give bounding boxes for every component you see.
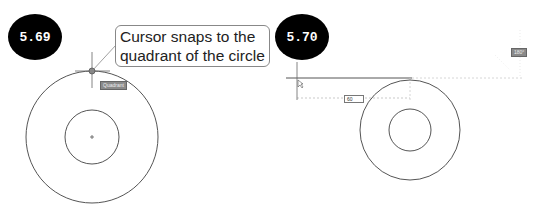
arrow-cursor-icon	[298, 80, 303, 88]
inner-circle	[389, 109, 431, 151]
snap-tooltip-text: Quadrant	[103, 82, 124, 88]
figure-number-badge: 5.69	[8, 14, 62, 60]
angle-tooltip: 180°	[511, 48, 527, 57]
figure-number: 5.69	[19, 30, 50, 45]
figure-number-badge: 5.70	[275, 14, 329, 60]
distance-input-value: 60	[347, 96, 353, 102]
angle-tooltip-text: 180°	[514, 49, 524, 55]
figure-number: 5.70	[286, 30, 317, 45]
snap-tooltip: Quadrant	[100, 81, 127, 90]
figure-5-69: 5.69 Cursor snaps to the quadrant of the…	[0, 0, 270, 215]
callout-box: Cursor snaps to the quadrant of the circ…	[115, 25, 270, 67]
figure-5-70: 5.70 60 180°	[270, 0, 535, 215]
callout-leader	[92, 45, 116, 71]
callout-text-line-2: quadrant of the circle	[120, 46, 265, 65]
callout-text-line-1: Cursor snaps to the	[120, 27, 265, 46]
distance-input[interactable]: 60	[344, 95, 364, 103]
